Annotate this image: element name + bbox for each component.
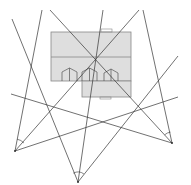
vertex-bottom-right [171,142,173,144]
sight-line [15,97,178,151]
building-floorplan [51,29,131,99]
top-tab [101,29,112,32]
vertex-bottom-center [77,181,79,183]
vertex-bottom-left [14,150,16,152]
building-annex [82,81,131,97]
diagram-canvas [0,0,191,185]
angle-arcs [17,132,170,174]
building-main [51,32,131,81]
sight-line [143,10,172,143]
sight-line [11,94,172,143]
sight-line [15,10,42,151]
geometry-diagram [0,0,191,185]
